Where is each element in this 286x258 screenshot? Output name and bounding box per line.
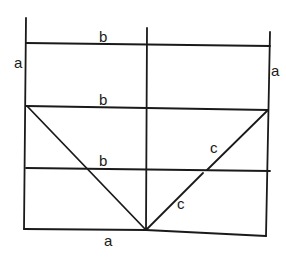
label-a-left: a (14, 54, 23, 71)
label-b-middle: b (99, 91, 107, 108)
lower-b-line (26, 168, 270, 171)
diagram-lines (24, 18, 270, 236)
bottom-line-left (24, 229, 146, 230)
left-vertical-line (24, 18, 26, 229)
label-c-lower: c (177, 195, 185, 212)
center-vertical-line (146, 28, 147, 230)
bottom-line-right (146, 230, 266, 236)
label-a-right: a (271, 62, 280, 79)
right-vertical-line (266, 32, 270, 236)
label-b-top: b (99, 28, 107, 45)
top-b-line (26, 43, 270, 46)
label-a-bottom: a (104, 232, 113, 249)
label-c-upper: c (210, 139, 218, 156)
label-b-lower: b (99, 152, 107, 169)
right-diagonal-lower (146, 173, 203, 230)
geometry-diagram: b b b a a a c c (0, 0, 286, 258)
